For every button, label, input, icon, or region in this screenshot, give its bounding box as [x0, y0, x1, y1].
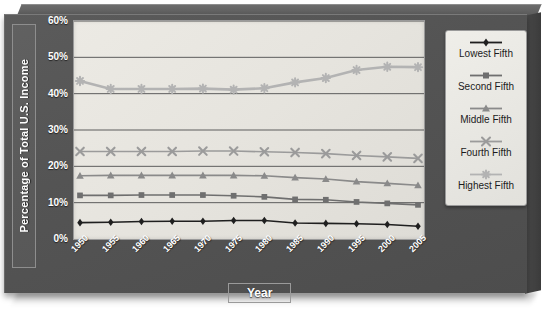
y-tick-label: 0%	[54, 233, 68, 244]
legend-item-second-fifth[interactable]: Second Fifth	[446, 68, 526, 101]
chart-figure: Percentage of Total U.S. Income 0%10%20%…	[0, 0, 543, 317]
square-marker-icon	[446, 68, 526, 81]
frame-right-bevel	[525, 12, 541, 294]
legend-item-fourth-fifth[interactable]: Fourth Fifth	[446, 134, 526, 167]
plot-area	[73, 20, 425, 240]
legend-item-lowest-fifth[interactable]: Lowest Fifth	[446, 35, 526, 68]
legend-label: Lowest Fifth	[446, 48, 526, 59]
y-tick-label: 20%	[48, 160, 68, 171]
y-tick-label: 30%	[48, 124, 68, 135]
legend-label: Second Fifth	[446, 81, 526, 92]
legend-item-middle-fifth[interactable]: Middle Fifth	[446, 101, 526, 134]
x-axis-title: Year	[247, 286, 272, 300]
y-axis-title: Percentage of Total U.S. Income	[18, 59, 30, 232]
legend-label: Middle Fifth	[446, 114, 526, 125]
y-tick-label: 60%	[48, 15, 68, 26]
series-lowest-fifth	[77, 217, 420, 230]
legend-label: Highest Fifth	[446, 180, 526, 191]
legend-label: Fourth Fifth	[446, 147, 526, 158]
series-highest-fifth	[76, 63, 422, 94]
plot-wrapper: 0%10%20%30%40%50%60%	[40, 20, 430, 245]
x-axis-title-box: Year	[228, 283, 291, 303]
star-marker-icon	[446, 167, 526, 180]
series-plot	[74, 21, 424, 239]
legend: Lowest FifthSecond FifthMiddle FifthFour…	[445, 30, 527, 206]
series-second-fifth	[77, 192, 421, 208]
y-tick-label: 50%	[48, 51, 68, 62]
legend-item-highest-fifth[interactable]: Highest Fifth	[446, 167, 526, 200]
y-axis-title-box: Percentage of Total U.S. Income	[12, 24, 36, 268]
cross-marker-icon	[446, 134, 526, 147]
series-fourth-fifth	[76, 147, 422, 162]
y-axis-tick-labels: 0%10%20%30%40%50%60%	[40, 20, 70, 238]
triangle-marker-icon	[446, 101, 526, 114]
series-middle-fifth	[76, 172, 422, 189]
y-tick-label: 40%	[48, 87, 68, 98]
x-axis-tick-labels: 1950195519601965197019751980198519901995…	[73, 243, 423, 283]
diamond-marker-icon	[446, 35, 526, 48]
y-tick-label: 10%	[48, 196, 68, 207]
